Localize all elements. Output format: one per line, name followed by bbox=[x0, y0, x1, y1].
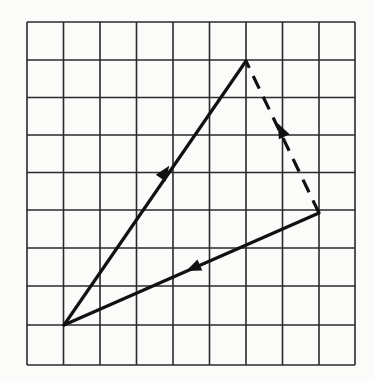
arrowhead-icon bbox=[156, 166, 169, 182]
grid bbox=[27, 22, 355, 365]
arrowhead-icon bbox=[186, 259, 202, 271]
vector-diagram bbox=[0, 0, 375, 381]
arrowhead-icon bbox=[278, 123, 290, 139]
